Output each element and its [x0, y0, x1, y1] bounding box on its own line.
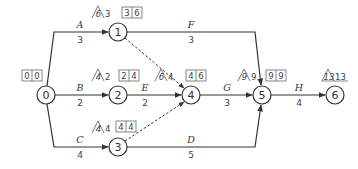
- node-2-annotation: 4 2 2 4: [92, 69, 139, 82]
- svg-text:4: 4: [168, 72, 173, 82]
- svg-text:6: 6: [332, 89, 339, 102]
- svg-text:4: 4: [105, 124, 110, 134]
- activity-E-name: E: [141, 82, 149, 93]
- activity-H-duration: 4: [296, 98, 302, 108]
- svg-text:4: 4: [128, 122, 133, 132]
- activity-A-duration: 3: [77, 35, 83, 45]
- node-5: 5: [253, 86, 271, 104]
- node-6-annotation: 13 13: [322, 69, 348, 82]
- svg-text:4: 4: [188, 89, 195, 102]
- node-6: 6: [326, 86, 344, 104]
- svg-text:4: 4: [96, 124, 101, 134]
- svg-text:1: 1: [115, 26, 122, 39]
- network-diagram: A 3 B 2 C 4 D 5 E 2 F 3 G 3 H 4 0 1 2 3 …: [0, 0, 358, 169]
- node-4-annotation: 6 4 4 6: [155, 69, 206, 82]
- activity-A-name: A: [76, 19, 84, 30]
- node-5-annotation: 9 9 9 9: [238, 69, 286, 82]
- svg-text:2: 2: [115, 89, 122, 102]
- activity-B-name: B: [76, 82, 84, 93]
- node-3-annotation: 4 4 4 4: [92, 121, 136, 134]
- svg-text:3: 3: [115, 141, 122, 154]
- svg-text:2: 2: [105, 72, 110, 82]
- svg-text:0: 0: [24, 71, 29, 81]
- svg-text:0: 0: [43, 89, 50, 102]
- svg-text:9: 9: [251, 72, 256, 82]
- node-1: 1: [109, 23, 127, 41]
- activity-C-name: C: [76, 134, 84, 145]
- svg-text:3: 3: [124, 8, 129, 18]
- svg-text:6: 6: [134, 8, 139, 18]
- node-3: 3: [109, 138, 127, 156]
- svg-text:9: 9: [242, 72, 247, 82]
- activity-D-duration: 5: [188, 150, 194, 160]
- svg-text:9: 9: [278, 71, 283, 81]
- svg-text:6: 6: [96, 9, 102, 19]
- activity-G-duration: 3: [224, 98, 230, 108]
- svg-text:0: 0: [34, 71, 39, 81]
- svg-text:6: 6: [159, 72, 165, 82]
- svg-text:2: 2: [121, 71, 126, 81]
- svg-text:4: 4: [118, 122, 123, 132]
- svg-text:3: 3: [105, 9, 110, 19]
- svg-text:4: 4: [96, 72, 101, 82]
- node-0-time-box: 0 0: [22, 70, 42, 81]
- activity-G-name: G: [223, 82, 231, 93]
- node-1-annotation: 6 3 3 6: [92, 6, 142, 19]
- activity-F-duration: 3: [188, 35, 194, 45]
- activity-H-name: H: [294, 82, 304, 93]
- node-4: 4: [182, 86, 200, 104]
- activity-D-name: D: [186, 134, 195, 145]
- svg-text:4: 4: [188, 71, 193, 81]
- activity-B-duration: 2: [77, 98, 83, 108]
- svg-text:13: 13: [324, 72, 335, 82]
- activity-C-duration: 4: [77, 150, 83, 160]
- activity-F-name: F: [187, 19, 195, 30]
- node-0: 0: [37, 86, 55, 104]
- activity-E-duration: 2: [142, 98, 148, 108]
- svg-text:4: 4: [131, 71, 136, 81]
- node-2: 2: [109, 86, 127, 104]
- svg-text:13: 13: [335, 72, 346, 82]
- svg-text:6: 6: [198, 71, 203, 81]
- svg-text:9: 9: [268, 71, 273, 81]
- svg-text:5: 5: [259, 89, 266, 102]
